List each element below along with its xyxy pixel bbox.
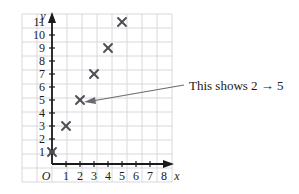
- y-tick-label-10: 10: [33, 28, 45, 42]
- plot-canvas: 11 10 9 8 7 6 5 4 3 2 1 1 2 3 4 5 6 7 8 …: [0, 0, 299, 194]
- data-point-2-5: [76, 96, 84, 104]
- y-tick-label-4: 4: [39, 106, 45, 120]
- scatter-plot-figure: 11 10 9 8 7 6 5 4 3 2 1 1 2 3 4 5 6 7 8 …: [0, 0, 299, 194]
- x-axis-label: x: [173, 169, 180, 183]
- data-point-4-9: [104, 44, 112, 52]
- data-points: [48, 18, 126, 156]
- x-tick-label-5: 5: [119, 169, 125, 183]
- y-tick-label-6: 6: [39, 80, 45, 94]
- y-tick-label-2: 2: [39, 132, 45, 146]
- y-tick-label-5: 5: [39, 93, 45, 107]
- y-tick-label-8: 8: [39, 54, 45, 68]
- x-tick-label-8: 8: [161, 169, 167, 183]
- x-tick-label-7: 7: [147, 169, 153, 183]
- x-tick-label-4: 4: [105, 169, 111, 183]
- x-tick-label-3: 3: [91, 169, 97, 183]
- data-point-5-11: [118, 18, 126, 26]
- x-tick-label-6: 6: [133, 169, 139, 183]
- annotation-arrow: [84, 85, 184, 104]
- x-axis: [52, 160, 174, 168]
- y-tick-label-1: 1: [39, 145, 45, 159]
- y-tick-label-7: 7: [39, 67, 45, 81]
- y-tick-label-3: 3: [39, 119, 45, 133]
- annotation-label: This shows 2 → 5: [189, 78, 284, 93]
- y-axis-label: y: [39, 9, 46, 23]
- y-tick-label-9: 9: [39, 41, 45, 55]
- x-tick-label-2: 2: [77, 169, 83, 183]
- x-tick-label-1: 1: [63, 169, 69, 183]
- origin-label: O: [42, 169, 51, 183]
